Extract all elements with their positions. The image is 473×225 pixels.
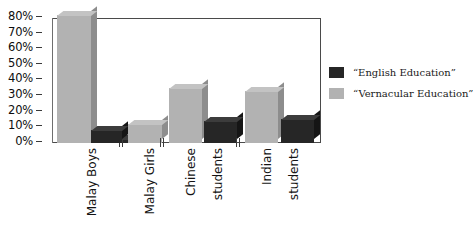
bar-side-face [91, 6, 97, 139]
bar-top-face [128, 120, 168, 125]
x-axis-tick-mark [160, 138, 161, 147]
bar-top-face [204, 117, 243, 122]
bar-malay-boys-vernacular [57, 15, 91, 143]
x-axis-tick-mark [122, 138, 123, 147]
legend-label: “Vernacular Education” [353, 88, 473, 99]
bar-front-face [245, 91, 278, 143]
bar-front-face [128, 124, 162, 143]
legend-swatch-icon [329, 67, 344, 78]
x-axis-label-indian-students: students [288, 148, 300, 200]
x-axis-label-malay-girls: Malay Girls [144, 148, 156, 214]
bar-front-face [91, 130, 122, 143]
bar-top-face [169, 84, 208, 89]
bar-indian-students-english [281, 119, 314, 143]
x-axis-label-indian: Indian [261, 148, 273, 185]
bar-side-face [162, 115, 168, 139]
bar-top-face [91, 126, 128, 131]
bar-chinese-students-vernacular [169, 88, 202, 143]
x-axis-labels: Malay Boys Malay Girls Chinese students … [0, 148, 457, 225]
bar-indian-students-vernacular [245, 91, 278, 143]
legend-swatch-icon [329, 88, 344, 99]
x-axis-label-chinese-students: students [212, 148, 224, 200]
bar-top-face [281, 115, 320, 120]
bar-front-face [57, 15, 91, 143]
bar-front-face [169, 88, 202, 143]
bar-front-face [204, 121, 237, 143]
legend-item-english-education: “English Education” [329, 64, 457, 81]
bar-front-face [281, 119, 314, 143]
x-axis-label-chinese: Chinese [185, 148, 197, 196]
legend: “English Education” “Vernacular Educatio… [329, 64, 457, 106]
bar-top-face [245, 87, 284, 92]
legend-label: “English Education” [353, 67, 456, 78]
x-axis-tick-mark [239, 138, 240, 147]
x-axis-label-malay-boys: Malay Boys [86, 148, 98, 216]
bar-malay-girls-english [91, 130, 122, 143]
x-axis-tick-mark [163, 138, 164, 147]
bar-top-face [57, 11, 97, 16]
legend-item-vernacular-education: “Vernacular Education” [329, 85, 457, 102]
bar-malay-girls-vernacular [128, 124, 162, 143]
bar-chinese-students-english [204, 121, 237, 143]
x-axis-tick-mark [236, 138, 237, 147]
